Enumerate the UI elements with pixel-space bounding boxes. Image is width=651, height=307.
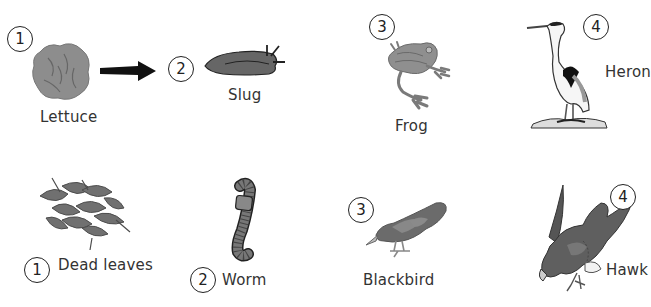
step-number-badge: 3 — [369, 14, 395, 40]
step-number-badge: 2 — [190, 267, 216, 293]
worm-icon — [212, 180, 257, 262]
blackbird-icon — [362, 199, 452, 259]
frog-icon — [383, 40, 453, 112]
step-number: 4 — [618, 188, 628, 206]
step-number: 2 — [198, 271, 208, 289]
step-number: 1 — [15, 30, 25, 48]
arrow-right-icon — [100, 61, 160, 81]
organism-label: Blackbird — [363, 271, 435, 289]
step-number: 1 — [32, 261, 42, 279]
step-number: 3 — [377, 18, 387, 36]
step-number-badge: 1 — [24, 257, 50, 283]
organism-label: Worm — [222, 271, 266, 289]
heron-icon — [527, 18, 617, 130]
dead-leaves-icon — [32, 178, 132, 250]
step-number-badge: 2 — [168, 56, 194, 82]
lettuce-icon — [30, 40, 92, 102]
organism-label: Heron — [605, 63, 651, 81]
step-number: 2 — [176, 60, 186, 78]
organism-label: Lettuce — [40, 108, 97, 126]
organism-label: Slug — [228, 86, 262, 104]
slug-icon — [203, 42, 288, 82]
organism-label: Hawk — [606, 261, 648, 279]
organism-label: Frog — [395, 117, 428, 135]
step-number-badge: 4 — [610, 184, 636, 210]
organism-label: Dead leaves — [58, 256, 153, 274]
